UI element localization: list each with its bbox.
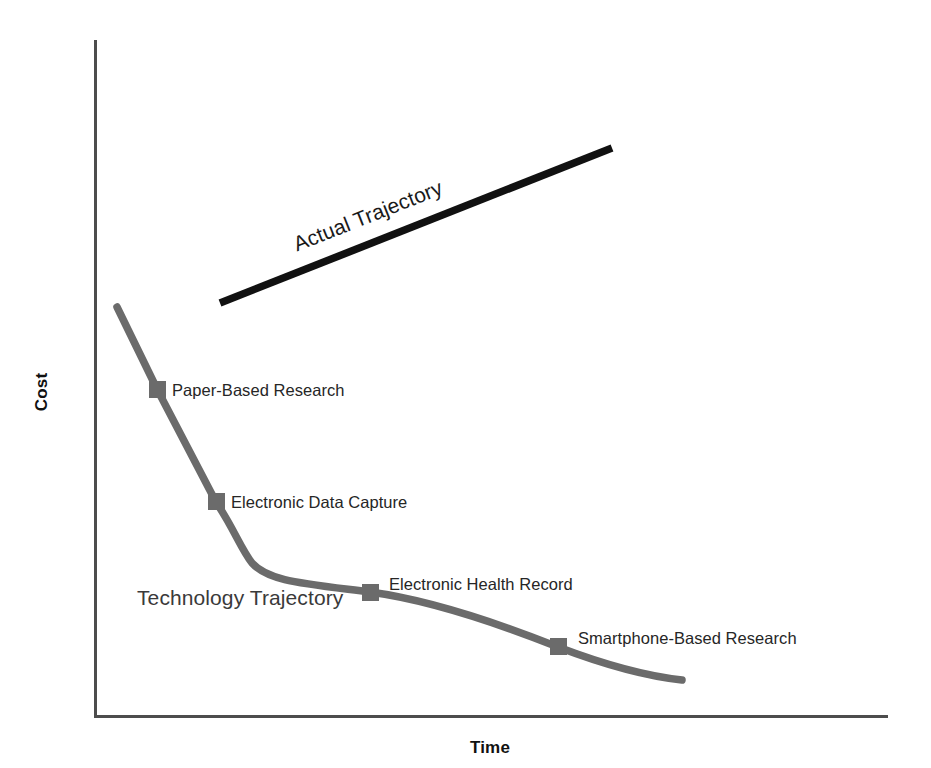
y-axis-title: Cost (32, 350, 52, 434)
data-label-electronic-health-record: Electronic Health Record (389, 575, 573, 594)
data-label-electronic-data-capture: Electronic Data Capture (231, 493, 407, 512)
data-label-paper-based-research: Paper-Based Research (172, 381, 345, 400)
x-axis-title: Time (440, 738, 540, 758)
chart-plot-area (0, 0, 931, 768)
actual-trajectory-line (220, 148, 612, 303)
data-marker-paper-based-research (149, 381, 166, 398)
data-marker-smartphone-based-research (550, 638, 567, 655)
data-marker-electronic-data-capture (208, 493, 225, 510)
technology-trajectory-label: Technology Trajectory (137, 586, 343, 610)
chart-figure: Cost Time Actual Trajectory Technology T… (0, 0, 931, 768)
data-marker-electronic-health-record (362, 584, 379, 601)
data-label-smartphone-based-research: Smartphone-Based Research (578, 629, 797, 648)
